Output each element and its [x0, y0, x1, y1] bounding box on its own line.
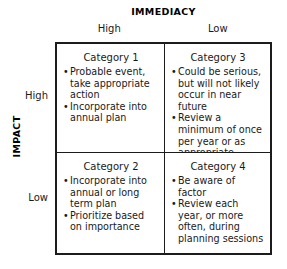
quadrant-category-1: Category 1 Probable event, take appropri…: [57, 44, 165, 153]
list-item: Prioritize based on importance: [63, 210, 159, 233]
list-item: Be aware of factor: [171, 175, 265, 198]
column-header-low: Low: [164, 23, 273, 34]
row-header-low: Low: [2, 192, 48, 203]
quadrant-category-4: Category 4 Be aware of factor Review eac…: [165, 153, 270, 253]
quadrant-title: Category 3: [171, 52, 265, 64]
column-headers: High Low: [55, 23, 272, 34]
quadrant-title: Category 1: [63, 52, 159, 64]
quadrant-category-3: Category 3 Could be serious, but will no…: [165, 44, 270, 153]
quadrant-title: Category 2: [63, 161, 159, 173]
impact-immediacy-matrix: Category 1 Probable event, take appropri…: [55, 42, 272, 255]
row-header-high: High: [2, 90, 48, 101]
list-item: Review each year, or more often, during …: [171, 198, 265, 244]
quadrant-bullet-list: Be aware of factor Review each year, or …: [171, 175, 265, 245]
list-item: Incorporate into annual plan: [63, 101, 159, 124]
quadrant-title: Category 4: [171, 161, 265, 173]
list-item: Review a minimum of once per year or as …: [171, 112, 265, 153]
list-item: Could be serious, but will not likely oc…: [171, 66, 265, 112]
list-item: Probable event, take appropriate action: [63, 66, 159, 101]
list-item: Incorporate into annual or long term pla…: [63, 175, 159, 210]
column-axis-title: IMMEDIACY: [55, 6, 272, 17]
quadrant-bullet-list: Probable event, take appropriate action …: [63, 66, 159, 124]
row-axis-title: IMPACT: [11, 107, 22, 167]
quadrant-category-2: Category 2 Incorporate into annual or lo…: [57, 153, 165, 253]
quadrant-bullet-list: Incorporate into annual or long term pla…: [63, 175, 159, 233]
quadrant-bullet-list: Could be serious, but will not likely oc…: [171, 66, 265, 153]
column-header-high: High: [55, 23, 164, 34]
